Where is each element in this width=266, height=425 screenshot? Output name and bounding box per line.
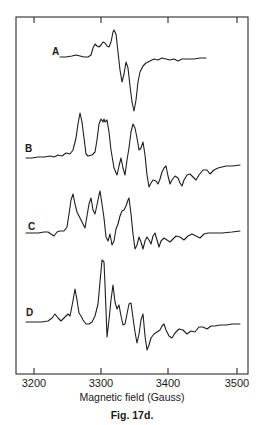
trace-c bbox=[26, 191, 240, 249]
trace-label-b: B bbox=[25, 143, 32, 154]
trace-label-a: A bbox=[52, 46, 59, 57]
epr-spectra-figure: 3200330034003500 ABCD Magnetic field (Ga… bbox=[0, 0, 266, 425]
bottom-ticks bbox=[34, 368, 237, 374]
trace-labels: ABCD bbox=[25, 46, 59, 318]
trace-a bbox=[60, 30, 206, 111]
figure-caption: Fig. 17d. bbox=[111, 409, 154, 421]
x-tick-labels: 3200330034003500 bbox=[22, 377, 249, 389]
x-axis-label: Magnetic field (Gauss) bbox=[79, 391, 184, 403]
plot-frame bbox=[16, 17, 248, 374]
trace-label-c: C bbox=[28, 221, 35, 232]
trace-label-d: D bbox=[26, 307, 33, 318]
trace-b bbox=[26, 113, 240, 187]
spectrum-traces bbox=[26, 30, 240, 350]
x-tick-label: 3400 bbox=[156, 377, 180, 389]
x-tick-label: 3500 bbox=[225, 377, 249, 389]
top-ticks bbox=[34, 17, 237, 23]
trace-d bbox=[26, 260, 240, 350]
x-tick-label: 3300 bbox=[89, 377, 113, 389]
x-tick-label: 3200 bbox=[22, 377, 46, 389]
